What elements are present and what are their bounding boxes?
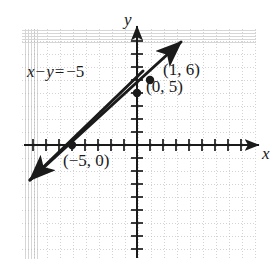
point-label-1-6: (1, 6): [163, 61, 200, 78]
y-axis: [131, 26, 143, 258]
equation-minus-sign: −: [35, 62, 47, 81]
equation-label: x−y=−5: [27, 63, 85, 80]
graph-plot-svg: [0, 0, 274, 273]
y-axis-label: y: [124, 11, 132, 28]
x-axis-label: x: [262, 145, 270, 162]
x-axis: [24, 139, 259, 151]
equation-equals-sign: =: [54, 62, 66, 81]
equation-value: −5: [65, 62, 85, 81]
graph-figure: x−y=−5 y x (1, 6) (0, 5) (−5, 0): [0, 0, 274, 273]
plotted-points: [68, 76, 154, 149]
point-label-0-5: (0, 5): [146, 78, 183, 95]
equation-term-y: y: [46, 62, 54, 81]
point-marker-neg5-0: [68, 141, 76, 149]
point-label-neg5-0: (−5, 0): [63, 152, 109, 169]
equation-term-x: x: [27, 62, 35, 81]
point-marker-0-5: [133, 89, 141, 97]
